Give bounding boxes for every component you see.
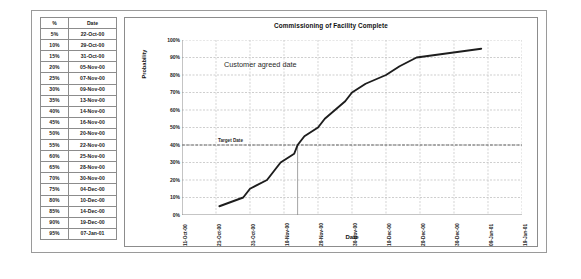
cell-date: 22-Oct-00 [69,29,117,40]
table-row: 35%13-Nov-00 [41,95,117,106]
annotation-target-date: Target Date [218,138,243,143]
table-row: 10%29-Oct-00 [41,40,117,51]
y-tick-label: 50% [158,125,180,130]
cell-percent: 5% [41,29,69,40]
probability-date-table: % Date 5%22-Oct-0010%29-Oct-0015%31-Oct-… [40,17,117,240]
x-axis-tick-labels: 11-Oct-0021-Oct-0031-Oct-0010-Nov-0020-N… [182,216,522,250]
table-row: 45%16-Nov-00 [41,117,117,128]
cell-date: 30-Nov-00 [69,173,117,184]
cell-date: 14-Nov-00 [69,106,117,117]
y-tick-label: 0% [158,213,180,218]
cell-date: 04-Dec-00 [69,184,117,195]
cell-percent: 90% [41,217,69,228]
column-header-date: Date [69,18,117,29]
x-tick-label: 19-Jan-01 [524,224,529,246]
table-row: 30%09-Nov-00 [41,84,117,95]
chart-panel: Commissioning of Facility Complete Proba… [124,17,538,247]
cell-date: 10-Dec-00 [69,195,117,206]
cell-percent: 25% [41,73,69,84]
y-tick-label: 10% [158,195,180,200]
cell-percent: 80% [41,195,69,206]
cell-percent: 75% [41,184,69,195]
table-row: 15%31-Oct-00 [41,51,117,62]
table-row: 65%28-Nov-00 [41,162,117,173]
cell-date: 28-Nov-00 [69,162,117,173]
table-row: 95%07-Jan-01 [41,228,117,239]
table-row: 85%14-Dec-00 [41,206,117,217]
table-row: 50%20-Nov-00 [41,128,117,139]
cell-date: 20-Nov-00 [69,128,117,139]
cell-date: 22-Nov-00 [69,140,117,151]
cell-date: 16-Nov-00 [69,117,117,128]
cell-percent: 85% [41,206,69,217]
cell-percent: 30% [41,84,69,95]
cell-percent: 70% [41,173,69,184]
table-header-row: % Date [41,18,117,29]
cell-date: 07-Jan-01 [69,228,117,239]
cell-percent: 10% [41,40,69,51]
y-tick-label: 100% [158,38,180,43]
chart-title: Commissioning of Facility Complete [125,22,537,29]
y-tick-label: 80% [158,73,180,78]
cell-percent: 55% [41,140,69,151]
y-tick-label: 20% [158,178,180,183]
y-tick-label: 40% [158,143,180,148]
cell-percent: 40% [41,106,69,117]
report-sheet: % Date 5%22-Oct-0010%29-Oct-0015%31-Oct-… [31,10,547,253]
table-row: 55%22-Nov-00 [41,140,117,151]
plot-area: Customer agreed date Target Date [182,40,522,215]
cell-percent: 65% [41,162,69,173]
table-row: 40%14-Nov-00 [41,106,117,117]
table-row: 75%04-Dec-00 [41,184,117,195]
y-tick-label: 70% [158,90,180,95]
cell-date: 09-Nov-00 [69,84,117,95]
cell-date: 14-Dec-00 [69,206,117,217]
cell-date: 07-Nov-00 [69,73,117,84]
cell-percent: 20% [41,62,69,73]
table-row: 5%22-Oct-00 [41,29,117,40]
cell-percent: 35% [41,95,69,106]
column-header-percent: % [41,18,69,29]
table-row: 60%25-Nov-00 [41,151,117,162]
table-row: 25%07-Nov-00 [41,73,117,84]
cell-date: 05-Nov-00 [69,62,117,73]
y-axis-tick-labels: 0%10%20%30%40%50%60%70%80%90%100% [153,40,180,215]
y-tick-label: 60% [158,108,180,113]
y-tick-label: 30% [158,160,180,165]
cell-date: 13-Nov-00 [69,95,117,106]
cell-date: 25-Nov-00 [69,151,117,162]
table-row: 20%05-Nov-00 [41,62,117,73]
cell-percent: 45% [41,117,69,128]
y-axis-title: Probability [141,24,147,104]
cell-date: 31-Oct-00 [69,51,117,62]
table-row: 70%30-Nov-00 [41,173,117,184]
cell-percent: 50% [41,128,69,139]
cell-percent: 95% [41,228,69,239]
cell-percent: 60% [41,151,69,162]
y-tick-label: 90% [158,55,180,60]
table-row: 80%10-Dec-00 [41,195,117,206]
x-axis-title: Date [182,234,522,240]
cell-date: 19-Dec-00 [69,217,117,228]
table-row: 90%19-Dec-00 [41,217,117,228]
cell-date: 29-Oct-00 [69,40,117,51]
cell-percent: 15% [41,51,69,62]
annotation-customer-agreed-date: Customer agreed date [224,60,297,69]
